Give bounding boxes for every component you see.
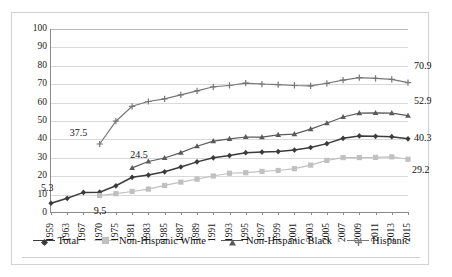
legend-divider: [22, 257, 420, 258]
legend-label: Hispanic: [372, 235, 409, 246]
data-label-52-9: 52.9: [414, 96, 432, 106]
y-tick-label-60: 60: [38, 98, 48, 108]
y-tick-label-70: 70: [38, 79, 48, 89]
y-tick-label-40: 40: [38, 135, 48, 145]
data-label-5-3: 5.3: [41, 183, 54, 193]
series-layer: [51, 29, 409, 213]
legend-marker-icon: [94, 236, 116, 245]
legend-label: Non-Hispanic White: [119, 235, 206, 246]
chart-legend: TotalNon-Hispanic WhiteNon-Hispanic Blac…: [12, 230, 430, 250]
legend-marker-icon: [33, 236, 55, 245]
legend-label: Total: [58, 235, 79, 246]
data-label-24-5: 24.5: [130, 150, 148, 160]
y-tick-label-90: 90: [38, 43, 48, 53]
legend-marker-icon: [347, 236, 369, 245]
chart-plot-area-wrapper: 0102030405060708090100 19591963196719701…: [12, 13, 430, 266]
data-label-29-2: 29.2: [412, 165, 430, 175]
data-label-40-3: 40.3: [414, 133, 432, 143]
data-label-9-5: 9.5: [94, 206, 107, 216]
y-tick-label-0: 0: [42, 208, 47, 218]
y-tick-label-30: 30: [38, 153, 48, 163]
y-tick-label-80: 80: [38, 61, 48, 71]
legend-item-non-hispanic-black[interactable]: Non-Hispanic Black: [221, 235, 332, 246]
y-tick-label-100: 100: [33, 24, 47, 34]
series-non-hispanic-black: [129, 110, 411, 170]
chart-plot-area: 0102030405060708090100 19591963196719701…: [50, 29, 408, 213]
legend-item-hispanic[interactable]: Hispanic: [347, 235, 409, 246]
data-label-70-9: 70.9: [414, 61, 432, 71]
chart-figure: 0102030405060708090100 19591963196719701…: [11, 12, 429, 265]
legend-item-total[interactable]: Total: [33, 235, 79, 246]
legend-item-non-hispanic-white[interactable]: Non-Hispanic White: [94, 235, 206, 246]
legend-marker-icon: [221, 236, 243, 245]
data-label-37-5: 37.5: [70, 128, 88, 138]
legend-label: Non-Hispanic Black: [246, 235, 332, 246]
y-tick-label-20: 20: [38, 171, 48, 181]
y-tick-label-50: 50: [38, 116, 48, 126]
